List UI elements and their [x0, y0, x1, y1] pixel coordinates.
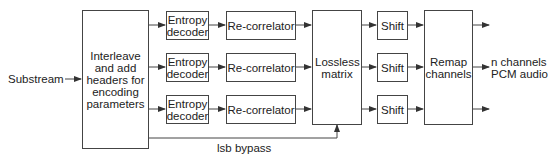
recorrelator-label: Re-correlator	[227, 20, 294, 32]
shift-3: Shift	[377, 95, 408, 124]
shift-2: Shift	[377, 53, 408, 82]
remap-label: Remap channels	[426, 56, 472, 80]
remap-channels-block: Remap channels	[424, 10, 473, 125]
substream-label: Substream	[8, 73, 64, 85]
entropy-decoder-label: Entropy decoder	[167, 98, 209, 122]
output-label-line2: PCM audio	[491, 68, 548, 80]
recorrelator-2: Re-correlator	[226, 53, 296, 82]
entropy-decoder-2: Entropy decoder	[166, 53, 209, 82]
recorrelator-label: Re-correlator	[227, 62, 294, 74]
shift-label: Shift	[381, 62, 404, 74]
entropy-decoder-label: Entropy decoder	[167, 14, 209, 38]
output-label-line1: n channels	[491, 56, 547, 68]
lossless-matrix-block: Lossless matrix	[312, 10, 362, 125]
entropy-decoder-3: Entropy decoder	[166, 95, 209, 124]
shift-1: Shift	[377, 11, 408, 40]
entropy-decoder-label: Entropy decoder	[167, 56, 209, 80]
shift-label: Shift	[381, 20, 404, 32]
lossless-matrix-label: Lossless matrix	[315, 56, 359, 80]
recorrelator-3: Re-correlator	[226, 95, 296, 124]
recorrelator-label: Re-correlator	[227, 104, 294, 116]
recorrelator-1: Re-correlator	[226, 11, 296, 40]
lsb-bypass-label: lsb bypass	[217, 142, 271, 154]
entropy-decoder-1: Entropy decoder	[166, 11, 209, 40]
interleave-block: Interleave and add headers for encoding …	[82, 10, 149, 149]
interleave-label: Interleave and add headers for encoding …	[83, 50, 148, 110]
shift-label: Shift	[381, 104, 404, 116]
